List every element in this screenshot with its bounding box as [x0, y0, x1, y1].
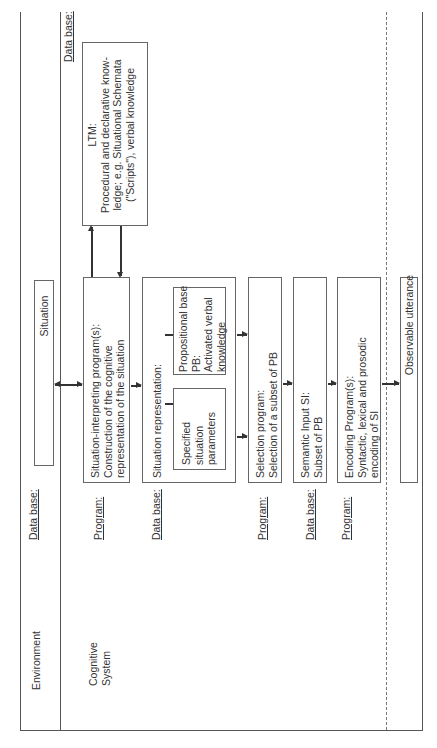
program3-label: Program: [340, 497, 353, 540]
ltm-box: LTM: Procedural and declarative know- le… [82, 42, 148, 226]
observable-utterance-box: Observable utterance [400, 277, 418, 483]
semantic-input-box: Semantic Input SI: Subset of PB [293, 277, 327, 483]
frame-bottom-line [20, 730, 423, 731]
db2-label: Data base: [150, 489, 163, 540]
situation-interpreting-arrow [55, 384, 82, 386]
environment-heading: Environment [30, 631, 43, 690]
program1-label: Program: [92, 497, 105, 540]
parameters-to-selection-arrow [237, 436, 247, 438]
interpreting-to-representation-arrow [131, 385, 141, 387]
ltm-title: LTM: [86, 49, 99, 221]
selection-to-semantic-arrow [283, 383, 292, 385]
db3-label: Data base: [304, 489, 317, 540]
situation-db-label: Data base: [27, 489, 40, 540]
cognitive-system-heading: Cognitive System [87, 642, 112, 686]
environment-divider [60, 12, 61, 730]
observable-divider [386, 12, 387, 730]
representation-title: Situation representation: [151, 364, 164, 478]
specified-parameters-box: Specified situation parameters [173, 388, 226, 470]
ltm-db-label: Data base: [62, 11, 75, 62]
selection-box: Selection program: Selection of a subset… [248, 277, 282, 483]
semantic-to-encoding-arrow [328, 383, 336, 385]
propositional-to-selection-arrow [237, 334, 247, 336]
frame-right-line [422, 12, 423, 730]
ltm-up-arrow [91, 227, 93, 277]
encoding-to-utterance-arrow [382, 383, 399, 385]
representation-box: Situation representation: Propositional … [142, 277, 236, 483]
situation-box: Situation [34, 280, 54, 466]
propositional-base-box: Propositional base PB: Activated verbal … [173, 287, 226, 375]
program2-label: Program: [256, 497, 269, 540]
frame-left-line [20, 12, 21, 730]
ltm-down-arrow [120, 226, 122, 276]
interpreting-box: Situation-interpreting program(s): Const… [83, 277, 130, 483]
encoding-box: Encoding Program(s): Syntactic, lexical … [337, 277, 381, 483]
